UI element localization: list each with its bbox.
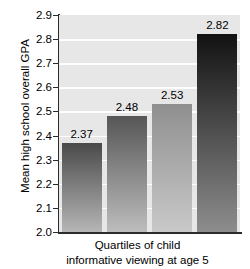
y-axis-tick-label: 2.9 bbox=[22, 9, 52, 21]
bar-value-label: 2.37 bbox=[70, 128, 92, 140]
bar bbox=[152, 104, 192, 232]
x-axis-title-line-2: informative viewing at age 5 bbox=[30, 253, 245, 268]
bar-value-label: 2.53 bbox=[161, 89, 183, 101]
bar-value-label: 2.48 bbox=[116, 101, 138, 113]
y-axis-tick-label: 2.7 bbox=[22, 57, 52, 69]
y-axis-tick-mark bbox=[53, 136, 59, 137]
y-axis-tick-label: 2.3 bbox=[22, 154, 52, 166]
y-axis-tick-label: 2.0 bbox=[22, 226, 52, 238]
y-axis-tick-label: 2.4 bbox=[22, 130, 52, 142]
x-axis-title: Quartiles of child informative viewing a… bbox=[30, 238, 245, 268]
y-axis-tick-label: 2.6 bbox=[22, 81, 52, 93]
y-axis-tick-mark bbox=[53, 63, 59, 64]
x-axis-title-line-1: Quartiles of child bbox=[30, 238, 245, 253]
y-axis-tick-mark bbox=[53, 15, 59, 16]
bar bbox=[197, 34, 237, 232]
bar bbox=[107, 116, 147, 232]
bar-chart-figure: Mean high school overall GPA 2.92.82.72.… bbox=[0, 0, 250, 269]
y-axis-tick-labels: 2.92.82.72.62.52.42.32.22.12.0 bbox=[22, 0, 52, 269]
y-axis-tick-mark bbox=[53, 39, 59, 40]
bar-value-label: 2.82 bbox=[206, 19, 228, 31]
plot-area bbox=[59, 15, 240, 232]
bar bbox=[62, 143, 102, 232]
y-axis-tick-mark bbox=[53, 208, 59, 209]
y-axis-tick-mark bbox=[53, 87, 59, 88]
y-axis-tick-mark bbox=[53, 184, 59, 185]
y-axis-tick-mark bbox=[53, 232, 59, 233]
y-axis-tick-label: 2.5 bbox=[22, 105, 52, 117]
x-axis-line bbox=[58, 232, 242, 234]
y-axis-tick-mark bbox=[53, 160, 59, 161]
y-axis-tick-label: 2.1 bbox=[22, 202, 52, 214]
y-axis-tick-mark bbox=[53, 111, 59, 112]
y-axis-tick-label: 2.8 bbox=[22, 33, 52, 45]
y-axis-tick-label: 2.2 bbox=[22, 178, 52, 190]
